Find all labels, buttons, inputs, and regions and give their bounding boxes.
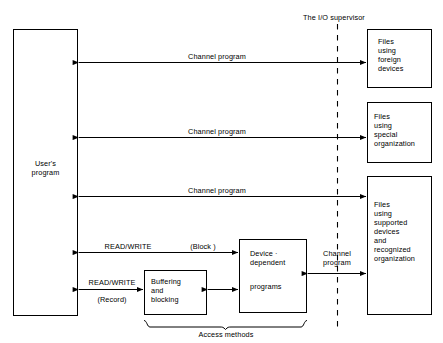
io-supervisor-title: The I/O supervisor [303, 13, 365, 22]
read-write-record-label: READ/WRITE [73, 278, 151, 287]
files-special-organization-label: Filesusingspecialorganization [374, 112, 415, 148]
files-foreign-devices-label: Filesusingforeigndevices [378, 37, 403, 73]
read-write-block-label: READ/WRITE [88, 242, 168, 251]
access-methods-label: Access methods [166, 330, 286, 339]
io-supervisor-diagram: The I/O supervisor User'sprogram Filesus… [0, 0, 443, 343]
channel-program-special-label: Channel program [167, 127, 267, 136]
channel-program-device-files-label: Channelprogram [310, 249, 364, 267]
access-methods-brace [144, 321, 307, 330]
buffering-blocking-label: Bufferingandblocking [151, 277, 181, 304]
users-program-label: User'sprogram [13, 159, 78, 177]
device-dependent-programs-label: Device ·dependent [250, 249, 285, 267]
block-qualifier-label: (Block ) [178, 242, 228, 251]
channel-program-foreign-label: Channel program [167, 52, 267, 61]
channel-program-supported-label: Channel program [167, 186, 267, 195]
files-supported-devices-label: Filesusingsupporteddevicesandrecognizedo… [374, 200, 415, 263]
device-programs-label: programs [250, 282, 282, 291]
record-qualifier-label: (Record) [80, 295, 144, 304]
